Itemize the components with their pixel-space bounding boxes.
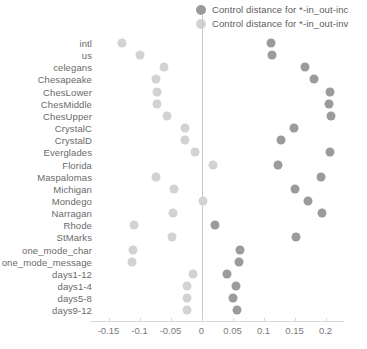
data-point-inc[interactable]	[291, 184, 300, 193]
data-point-inv[interactable]	[183, 282, 192, 291]
x-axis-tick	[295, 318, 296, 322]
data-point-inv[interactable]	[170, 184, 179, 193]
data-point-inv[interactable]	[180, 136, 189, 145]
data-point-inc[interactable]	[324, 99, 333, 108]
data-point-inv[interactable]	[159, 63, 168, 72]
data-point-inc[interactable]	[291, 233, 300, 242]
data-point-inv[interactable]	[182, 294, 191, 303]
data-point-inv[interactable]	[129, 245, 138, 254]
data-point-inc[interactable]	[310, 75, 319, 84]
x-axis-line	[90, 321, 344, 322]
data-point-inc[interactable]	[289, 124, 298, 133]
x-axis-tick-label: 0.05	[223, 325, 242, 336]
x-axis-tick-label: -0.15	[98, 325, 120, 336]
data-point-inv[interactable]	[163, 111, 172, 120]
data-point-inc[interactable]	[325, 148, 334, 157]
data-point-inv[interactable]	[118, 39, 127, 48]
x-axis-tick-label: -0.1	[131, 325, 147, 336]
dot-plot-chart: Control distance for *-in_out-inc Contro…	[0, 0, 367, 349]
x-axis-tick	[202, 318, 203, 322]
x-axis-tick	[109, 318, 110, 322]
data-point-inv[interactable]	[136, 51, 145, 60]
data-point-inc[interactable]	[235, 245, 244, 254]
x-axis-tick-label: -0.05	[160, 325, 182, 336]
data-point-inc[interactable]	[210, 221, 219, 230]
data-point-inc[interactable]	[233, 306, 242, 315]
data-point-inc[interactable]	[304, 196, 313, 205]
data-point-inc[interactable]	[326, 87, 335, 96]
x-axis-tick	[264, 318, 265, 322]
data-point-inc[interactable]	[268, 51, 277, 60]
data-point-inv[interactable]	[189, 269, 198, 278]
data-point-inv[interactable]	[152, 99, 161, 108]
data-point-inv[interactable]	[168, 209, 177, 218]
x-axis-tick	[171, 318, 172, 322]
x-axis-tick	[326, 318, 327, 322]
x-axis-tick-label: 0.2	[319, 325, 332, 336]
data-point-inv[interactable]	[191, 148, 200, 157]
data-point-inv[interactable]	[153, 87, 162, 96]
zero-reference-line	[202, 14, 203, 321]
data-point-inc[interactable]	[316, 172, 325, 181]
x-axis-tick-label: 0.1	[257, 325, 270, 336]
data-point-inv[interactable]	[199, 196, 208, 205]
data-point-inc[interactable]	[276, 136, 285, 145]
data-point-inc[interactable]	[229, 294, 238, 303]
data-point-inc[interactable]	[235, 257, 244, 266]
data-point-inv[interactable]	[152, 172, 161, 181]
data-point-inc[interactable]	[274, 160, 283, 169]
x-axis-tick-label: 0	[199, 325, 204, 336]
data-point-inc[interactable]	[327, 111, 336, 120]
x-axis-tick-label: 0.15	[285, 325, 304, 336]
data-point-inv[interactable]	[181, 124, 190, 133]
data-point-inc[interactable]	[232, 282, 241, 291]
x-axis-tick	[233, 318, 234, 322]
data-point-inc[interactable]	[317, 209, 326, 218]
data-point-inc[interactable]	[301, 63, 310, 72]
data-point-inc[interactable]	[266, 39, 275, 48]
data-point-inv[interactable]	[182, 306, 191, 315]
data-point-inv[interactable]	[129, 221, 138, 230]
data-point-inv[interactable]	[151, 75, 160, 84]
data-point-inv[interactable]	[209, 160, 218, 169]
plot-area	[0, 0, 367, 349]
data-point-inc[interactable]	[222, 269, 231, 278]
data-point-inv[interactable]	[128, 257, 137, 266]
x-axis-tick	[140, 318, 141, 322]
data-point-inv[interactable]	[168, 233, 177, 242]
